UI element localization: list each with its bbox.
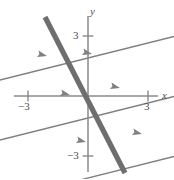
arrow-lower-left-icon bbox=[76, 137, 87, 146]
arrowheads-group bbox=[37, 49, 143, 146]
parallel-line-lower bbox=[0, 157, 174, 180]
perpendicular-line bbox=[45, 17, 125, 173]
x-axis-label: x bbox=[162, 90, 167, 101]
coordinate-plot bbox=[0, 0, 174, 179]
x-tick-label-negative: −3 bbox=[18, 101, 30, 112]
parallel-line-upper bbox=[0, 37, 174, 81]
graph-figure: x y 3 −3 3 −3 bbox=[0, 0, 174, 179]
x-tick-label-positive: 3 bbox=[144, 101, 150, 112]
y-tick-label-negative: −3 bbox=[67, 150, 79, 161]
y-axis-label: y bbox=[90, 6, 95, 17]
y-tick-label-positive: 3 bbox=[73, 30, 79, 41]
perpendicular-line-group bbox=[45, 17, 125, 173]
arrow-upper-left-icon bbox=[37, 51, 48, 60]
arrow-lower-right-icon bbox=[132, 129, 143, 138]
arrow-middle-left-icon bbox=[60, 90, 71, 99]
arrow-middle-right-icon bbox=[110, 83, 121, 92]
